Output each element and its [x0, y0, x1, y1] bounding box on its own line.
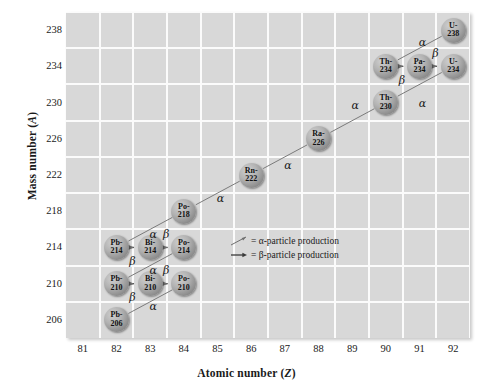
nuclide-mass: 234: [447, 66, 459, 75]
decay-arrow-alpha: [330, 109, 374, 133]
legend-alpha-text: = α-particle production: [251, 234, 339, 248]
x-axis-title-text: Atomic number (: [197, 367, 284, 379]
legend-row-alpha: = α-particle production: [229, 234, 429, 248]
decay-label-alpha: α: [150, 264, 157, 277]
decay-label-alpha: α: [419, 36, 426, 49]
decay-label-beta: β: [432, 47, 438, 60]
x-tick-label: 89: [339, 343, 365, 354]
nuclide-mass: 214: [144, 247, 156, 256]
plot-area: U-238Th-234Pa-234U-234Th-230Ra-226Rn-222…: [66, 12, 470, 338]
nuclide-node[interactable]: Th-234: [373, 54, 398, 79]
x-tick-label: 91: [407, 343, 433, 354]
decay-label-beta: β: [163, 228, 169, 241]
y-tick-label: 206: [28, 315, 62, 325]
x-tick-label: 84: [171, 343, 197, 354]
decay-label-beta: β: [399, 74, 405, 87]
nuclide-node[interactable]: U-238: [441, 18, 466, 43]
nuclide-mass: 206: [111, 320, 123, 329]
nuclide-mass: 210: [111, 284, 123, 293]
x-tick-label: 88: [306, 343, 332, 354]
nuclide-mass: 234: [380, 66, 392, 75]
y-tick-label: 234: [28, 61, 62, 71]
y-tick-label: 214: [28, 242, 62, 252]
decay-label-alpha: α: [352, 99, 359, 112]
legend: = α-particle production = β-particle pro…: [229, 234, 429, 262]
x-axis-symbol: Z: [284, 367, 291, 379]
x-tick-label: 85: [205, 343, 231, 354]
nuclide-mass: 214: [111, 247, 123, 256]
nuclide-mass: 234: [414, 66, 426, 75]
nuclide-mass: 210: [178, 284, 190, 293]
y-tick-label: 226: [28, 134, 62, 144]
decay-series-figure: Mass number (A) Atomic number (Z) 206210…: [0, 0, 493, 392]
x-tick-label: 81: [70, 343, 96, 354]
legend-row-beta: = β-particle production: [229, 248, 429, 262]
nuclide-mass: 222: [245, 175, 257, 184]
decay-label-alpha: α: [419, 97, 426, 110]
nuclide-node[interactable]: Pb-214: [104, 235, 129, 260]
legend-beta-text: = β-particle production: [251, 248, 339, 262]
decay-label-alpha: α: [150, 300, 157, 313]
y-tick-label: 230: [28, 98, 62, 108]
y-tick-label: 222: [28, 170, 62, 180]
x-tick-label: 90: [373, 343, 399, 354]
diagonal-arrow-icon: [229, 235, 251, 247]
nuclide-node[interactable]: Pa-234: [407, 54, 432, 79]
decay-label-beta: β: [129, 291, 135, 304]
nuclide-mass: 214: [178, 247, 190, 256]
nuclide-mass: 210: [144, 284, 156, 293]
horizontal-arrow-icon: [229, 249, 251, 261]
x-tick-label: 87: [272, 343, 298, 354]
decay-label-beta: β: [163, 264, 169, 277]
nuclide-node[interactable]: Rn-222: [239, 163, 264, 188]
nuclide-mass: 230: [380, 103, 392, 112]
x-axis-tick-labels: 818283848586878889909192: [0, 343, 493, 359]
y-axis-tick-labels: 206210214218222226230234238: [22, 0, 62, 392]
nuclide-node[interactable]: U-234: [441, 54, 466, 79]
y-tick-label: 210: [28, 279, 62, 289]
x-tick-label: 92: [440, 343, 466, 354]
x-tick-label: 86: [238, 343, 264, 354]
x-axis-title-suffix: ): [292, 367, 296, 379]
decay-label-alpha: α: [150, 228, 157, 241]
nuclide-mass: 218: [178, 211, 190, 220]
decay-label-beta: β: [129, 255, 135, 268]
x-tick-label: 82: [104, 343, 130, 354]
decay-label-alpha: α: [284, 159, 291, 172]
nuclide-node[interactable]: Pb-210: [104, 271, 129, 296]
nuclide-mass: 226: [313, 139, 325, 148]
x-tick-label: 83: [137, 343, 163, 354]
decay-label-alpha: α: [217, 192, 224, 205]
nuclide-node[interactable]: Po-218: [171, 199, 196, 224]
y-tick-label: 218: [28, 206, 62, 216]
y-tick-label: 238: [28, 25, 62, 35]
nuclide-mass: 238: [447, 30, 459, 39]
x-axis-title: Atomic number (Z): [0, 367, 493, 379]
